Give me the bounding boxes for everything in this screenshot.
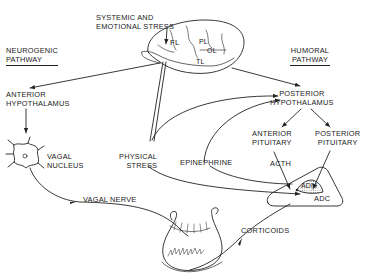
vagal-nucleus-line1: VAGAL xyxy=(47,152,84,161)
label-systemic-emotional-stress: SYSTEMIC AND EMOTIONAL STRESS xyxy=(96,13,174,31)
arrow-epinephrine-to-adm xyxy=(210,166,292,184)
label-epinephrine: EPINEPHRINE xyxy=(180,158,232,167)
physical-stress-line1: PHYSICAL xyxy=(119,152,157,161)
post-hypo-line1: POSTERIOR xyxy=(270,89,334,98)
ant-pit-line1: ANTERIOR xyxy=(252,129,292,138)
header-neurogenic-pathway: NEUROGENIC PATHWAY xyxy=(6,46,58,66)
lobe-pl: PL xyxy=(199,37,208,46)
vagal-nucleus-neuron-icon xyxy=(6,137,44,168)
ant-pit-line2: PITUITARY xyxy=(252,138,292,147)
arrow-brain-to-posterior-hypothalamus xyxy=(232,68,300,86)
ant-hypo-line1: ANTERIOR xyxy=(6,90,70,99)
label-anterior-pituitary: ANTERIOR PITUITARY xyxy=(252,129,292,147)
label-physical-stress: PHYSICAL STRESS xyxy=(119,152,157,170)
label-anterior-hypothalamus: ANTERIOR HYPOTHALAMUS xyxy=(6,90,70,108)
lobe-ol: OL xyxy=(207,46,217,55)
header-humoral-pathway: HUMORAL PATHWAY xyxy=(290,46,330,66)
diagram-canvas xyxy=(0,0,367,279)
stomach-icon xyxy=(162,208,222,272)
ant-hypo-line2: HYPOTHALAMUS xyxy=(6,99,70,108)
label-adc: ADC xyxy=(314,194,330,203)
arrow-brain-to-anterior-hypothalamus xyxy=(30,63,160,88)
label-adm: ADM xyxy=(301,181,317,190)
stress-line2: EMOTIONAL STRESS xyxy=(96,22,174,31)
label-acth: ACTH xyxy=(270,159,291,168)
lobe-fl: FL xyxy=(170,38,180,47)
label-posterior-hypothalamus: POSTERIOR HYPOTHALAMUS xyxy=(270,89,334,107)
stress-pathway-diagram: SYSTEMIC AND EMOTIONAL STRESS NEUROGENIC… xyxy=(0,0,367,279)
vagal-nucleus-line2: NUCLEUS xyxy=(47,161,84,170)
arrow-stress-to-brain xyxy=(166,29,167,44)
label-corticoids: CORTICOIDS xyxy=(241,226,289,235)
humoral-line2: PATHWAY xyxy=(290,55,330,66)
neurogenic-line2: PATHWAY xyxy=(6,55,58,66)
label-vagal-nerve: VAGAL NERVE xyxy=(83,195,136,204)
neurogenic-line1: NEUROGENIC xyxy=(6,46,58,55)
label-vagal-nucleus: VAGAL NUCLEUS xyxy=(47,152,84,170)
arrow-to-anterior-pituitary xyxy=(282,109,301,127)
humoral-line1: HUMORAL xyxy=(290,46,330,55)
arrow-corticoids-to-stomach xyxy=(190,204,290,270)
label-posterior-pituitary: POSTERIOR PITUITARY xyxy=(315,129,360,147)
post-pit-line1: POSTERIOR xyxy=(315,129,360,138)
arrow-to-posterior-pituitary xyxy=(311,109,330,127)
arrow-physical-stress-to-brain xyxy=(150,62,163,141)
post-hypo-line2: HYPOTHALAMUS xyxy=(270,98,334,107)
lobe-tl: TL xyxy=(196,57,205,66)
physical-stress-line2: STRESS xyxy=(119,161,157,170)
post-pit-line2: PITUITARY xyxy=(315,138,360,147)
stress-line1: SYSTEMIC AND xyxy=(96,13,174,22)
